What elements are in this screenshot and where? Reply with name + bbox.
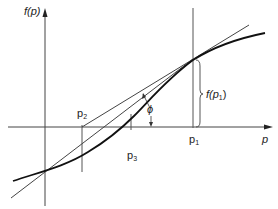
secant-line [82,25,249,127]
f-p1-label-prefix: f(p [206,88,219,100]
y-axis-label-text: f(p) [24,5,41,17]
angle-phi-label: ϕ [147,104,153,115]
p1-label-sub: 1 [195,139,199,146]
p2-label: p2 [77,108,87,120]
y-axis [43,8,48,206]
diagram-canvas [0,0,278,209]
y-axis-label: f(p) [24,6,41,17]
p3-label: p3 [127,150,137,162]
f-p1-label: f(p1) [206,89,226,101]
x-axis-arrow-icon [264,125,273,130]
x-axis-label: p [262,134,268,145]
f-p1-label-suffix: ) [223,88,227,100]
y-axis-arrow-icon [43,8,48,17]
p3-label-sub: 3 [133,155,137,162]
diagram: f(p) p p2 p3 p1 ϕ f(p1) [0,0,278,209]
p2-label-sub: 2 [83,113,87,120]
x-axis [8,125,273,130]
f-p1-bracket [196,60,203,127]
tangent-line [11,59,193,198]
p1-label: p1 [189,134,199,146]
function-curve [13,33,265,181]
